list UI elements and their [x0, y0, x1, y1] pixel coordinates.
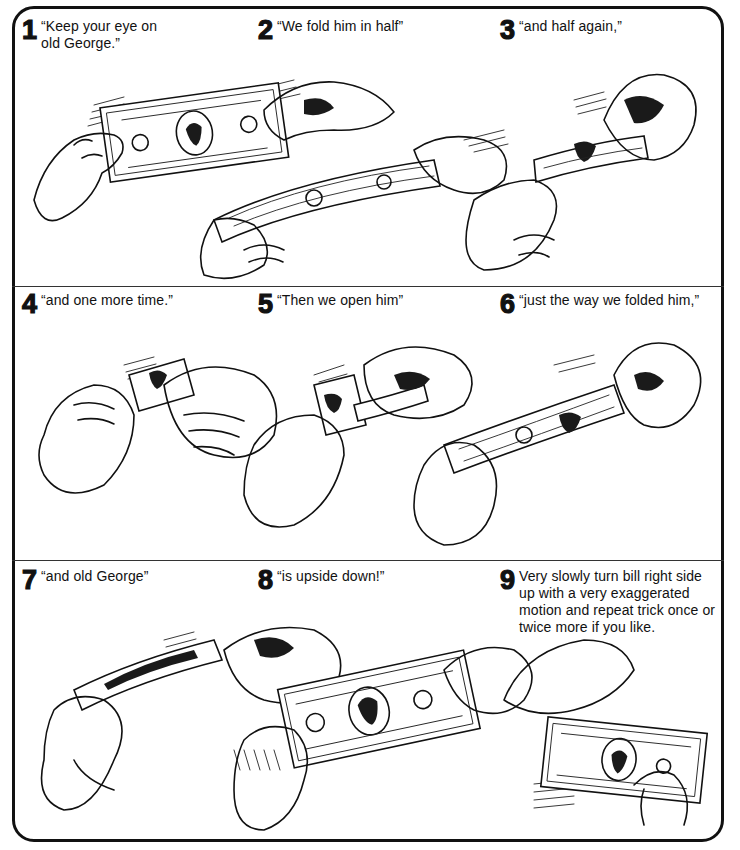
row-divider-2: [12, 560, 724, 561]
step-caption: “and half again,”: [519, 18, 622, 35]
step-number: 6: [500, 292, 514, 316]
step-8: 8 “is upside down!”: [258, 568, 385, 592]
step-number: 7: [22, 568, 36, 592]
dollar-bill-icon: [278, 650, 480, 768]
step-number: 4: [22, 292, 36, 316]
dollar-bill-icon: [444, 385, 624, 473]
step-caption: “We fold him in half”: [277, 18, 403, 35]
step-2: 2 “We fold him in half”: [258, 18, 403, 42]
step-caption: “Keep your eye on old George.”: [41, 18, 157, 52]
dollar-bill-icon: [100, 83, 289, 182]
step-3: 3 “and half again,”: [500, 18, 622, 42]
step-number: 8: [258, 568, 272, 592]
step-number: 1: [22, 18, 36, 42]
hatching-icon: [124, 355, 595, 389]
step-7: 7 “and old George”: [22, 568, 148, 592]
dollar-bill-icon: [541, 717, 707, 803]
illustration-row-2: [14, 325, 722, 557]
folded-bill-icon: [129, 359, 194, 411]
folded-bill-icon: [74, 640, 222, 710]
step-number: 2: [258, 18, 272, 42]
step-caption: “just the way we folded him,”: [519, 292, 699, 309]
folded-bill-icon: [534, 136, 648, 182]
step-4: 4 “and one more time.”: [22, 292, 173, 316]
row-divider-1: [12, 286, 724, 287]
step-caption: “and one more time.”: [41, 292, 173, 309]
step-caption: “is upside down!”: [277, 568, 385, 585]
step-caption: “Then we open him”: [277, 292, 403, 309]
step-caption: “and old George”: [41, 568, 148, 585]
step-number: 3: [500, 18, 514, 42]
step-5: 5 “Then we open him”: [258, 292, 403, 316]
folded-bill-icon: [214, 160, 440, 242]
illustration-row-1: [14, 50, 722, 284]
step-6: 6 “just the way we folded him,”: [500, 292, 699, 316]
illustration-row-3: [14, 610, 722, 838]
step-1: 1 “Keep your eye on old George.”: [22, 18, 157, 52]
step-number: 5: [258, 292, 272, 316]
step-number: 9: [500, 568, 514, 592]
